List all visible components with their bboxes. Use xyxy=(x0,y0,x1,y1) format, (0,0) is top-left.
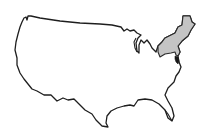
us-outline xyxy=(15,16,195,127)
northeast-region xyxy=(158,16,195,57)
us-map xyxy=(0,0,203,131)
